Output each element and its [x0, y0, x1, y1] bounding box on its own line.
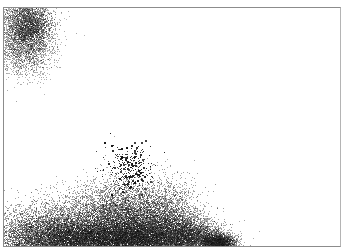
paint-canvas[interactable] — [4, 8, 340, 246]
drawing-canvas-area[interactable]: Drawing canvas — [3, 7, 341, 247]
